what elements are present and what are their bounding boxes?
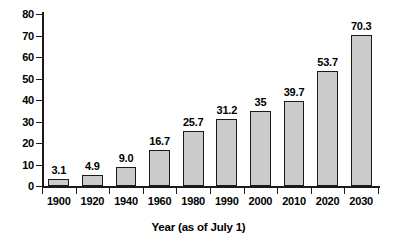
bar: [82, 175, 103, 186]
x-axis-title: Year (as of July 1): [0, 222, 397, 234]
bar-value-label: 9.0: [102, 153, 150, 164]
bar-chart: 01020304050607080 3.14.99.016.725.731.23…: [0, 0, 397, 246]
bar-value-label: 16.7: [136, 136, 184, 147]
bar-value-label: 70.3: [337, 21, 385, 32]
y-tick-label: 80: [8, 9, 34, 20]
x-tick: [176, 188, 177, 194]
y-tick-label: 30: [8, 117, 34, 128]
y-tick-label: 20: [8, 138, 34, 149]
x-tick-label: 2030: [337, 196, 385, 207]
x-tick: [311, 188, 312, 194]
bar: [183, 131, 204, 186]
y-tick-label: 60: [8, 52, 34, 63]
x-tick: [277, 188, 278, 194]
bar: [351, 35, 372, 186]
y-tick-label: 70: [8, 31, 34, 42]
bar: [284, 101, 305, 186]
bar-value-label: 39.7: [270, 87, 318, 98]
bar-value-label: 25.7: [169, 117, 217, 128]
y-tick-label: 50: [8, 74, 34, 85]
x-tick: [143, 188, 144, 194]
bar: [116, 167, 137, 186]
x-tick: [244, 188, 245, 194]
x-axis-line: [42, 186, 380, 188]
y-tick-label: 0: [8, 181, 34, 192]
bar: [48, 179, 69, 186]
y-tick: [36, 186, 42, 187]
x-tick: [42, 188, 43, 194]
x-tick: [210, 188, 211, 194]
bar: [250, 111, 271, 186]
x-tick: [109, 188, 110, 194]
bar-value-label: 53.7: [304, 57, 352, 68]
x-tick: [344, 188, 345, 194]
bar: [216, 119, 237, 186]
y-tick-label: 10: [8, 160, 34, 171]
x-tick: [378, 188, 379, 194]
x-tick: [76, 188, 77, 194]
y-tick-label: 40: [8, 95, 34, 106]
bar: [317, 71, 338, 186]
bar-value-label: 35: [236, 97, 284, 108]
bar: [149, 150, 170, 186]
